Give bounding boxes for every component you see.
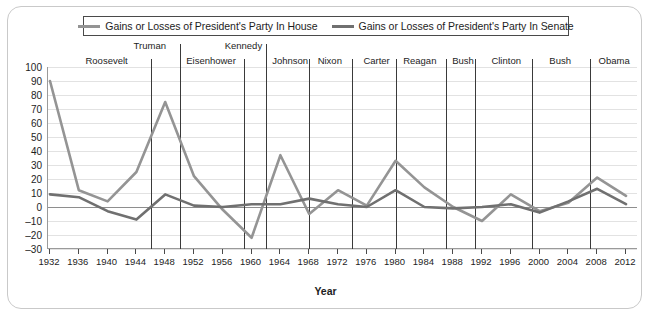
x-tick-label: 1960	[240, 256, 261, 267]
legend-line-swatch-icon	[78, 25, 100, 28]
president-label-carter-6: Carter	[363, 55, 389, 66]
x-tick-label: 2004	[557, 256, 578, 267]
y-tick-label: 0	[8, 202, 42, 213]
y-tick-label: 20	[8, 174, 42, 185]
x-tick-label: 1980	[384, 256, 405, 267]
x-tick-mark	[107, 249, 108, 254]
president-label-johnson-4: Johnson	[272, 55, 308, 66]
y-tick-label: 30	[8, 160, 42, 171]
x-tick-label: 2008	[586, 256, 607, 267]
x-tick-mark	[510, 249, 511, 254]
x-tick-mark	[135, 249, 136, 254]
series-line-senate	[50, 189, 626, 220]
president-label-obama-11: Obama	[599, 55, 630, 66]
x-tick-mark	[337, 249, 338, 254]
x-tick-label: 1940	[96, 256, 117, 267]
series-lines	[48, 67, 638, 249]
legend-label: Gains or Losses of President's Party In …	[359, 20, 574, 32]
x-tick-mark	[49, 249, 50, 254]
legend-label: Gains or Losses of President's Party In …	[105, 20, 317, 32]
president-label-bush-10: Bush	[549, 55, 571, 66]
x-tick-label: 1944	[125, 256, 146, 267]
x-tick-label: 1972	[326, 256, 347, 267]
x-tick-label: 1952	[182, 256, 203, 267]
x-tick-label: 1932	[38, 256, 59, 267]
president-label-bush-8: Bush	[452, 55, 474, 66]
x-tick-label: 2012	[614, 256, 635, 267]
president-label-clinton-9: Clinton	[491, 55, 521, 66]
legend-entry-1: Gains or Losses of President's Party In …	[332, 20, 574, 32]
x-tick-mark	[366, 249, 367, 254]
x-tick-label: 1996	[499, 256, 520, 267]
x-tick-mark	[395, 249, 396, 254]
legend-entry-0: Gains or Losses of President's Party In …	[78, 20, 317, 32]
plot-area	[47, 67, 637, 249]
x-tick-label: 1968	[298, 256, 319, 267]
chart-legend: Gains or Losses of President's Party In …	[83, 16, 569, 36]
x-tick-mark	[596, 249, 597, 254]
y-tick-label: 50	[8, 132, 42, 143]
x-tick-mark	[423, 249, 424, 254]
x-tick-label: 1956	[211, 256, 232, 267]
x-tick-mark	[625, 249, 626, 254]
x-tick-mark	[279, 249, 280, 254]
y-tick-label: 100	[8, 62, 42, 73]
x-tick-label: 1984	[413, 256, 434, 267]
x-tick-mark	[251, 249, 252, 254]
x-tick-label: 2000	[528, 256, 549, 267]
x-axis-title: Year	[0, 285, 651, 297]
y-tick-label: –30	[8, 244, 42, 255]
x-tick-mark	[539, 249, 540, 254]
president-label-nixon-5: Nixon	[318, 55, 342, 66]
president-label-kennedy-3: Kennedy	[225, 40, 263, 51]
x-tick-mark	[308, 249, 309, 254]
y-tick-label: 80	[8, 90, 42, 101]
y-tick-label: 70	[8, 104, 42, 115]
x-tick-label: 1948	[154, 256, 175, 267]
president-label-eisenhower-2: Eisenhower	[186, 55, 236, 66]
legend-line-swatch-icon	[332, 25, 354, 28]
y-tick-label: –20	[8, 230, 42, 241]
x-tick-mark	[78, 249, 79, 254]
y-tick-label: 40	[8, 146, 42, 157]
x-tick-mark	[481, 249, 482, 254]
y-tick-label: 10	[8, 188, 42, 199]
x-tick-mark	[567, 249, 568, 254]
x-tick-label: 1992	[470, 256, 491, 267]
president-label-truman-1: Truman	[134, 40, 166, 51]
x-tick-label: 1964	[269, 256, 290, 267]
president-label-reagan-7: Reagan	[403, 55, 436, 66]
y-tick-label: –10	[8, 216, 42, 227]
x-tick-label: 1936	[67, 256, 88, 267]
x-tick-mark	[452, 249, 453, 254]
series-line-house	[50, 81, 626, 238]
x-tick-mark	[164, 249, 165, 254]
chart-screenshot: Gains or Losses of President's Party In …	[0, 0, 651, 321]
x-tick-mark	[193, 249, 194, 254]
y-tick-label: 90	[8, 76, 42, 87]
president-label-roosevelt-0: Roosevelt	[85, 55, 127, 66]
x-tick-label: 1988	[442, 256, 463, 267]
x-tick-mark	[222, 249, 223, 254]
x-tick-label: 1976	[355, 256, 376, 267]
y-tick-label: 60	[8, 118, 42, 129]
x-axis-tick-labels: 1932193619401944194819521956196019641968…	[47, 249, 637, 271]
